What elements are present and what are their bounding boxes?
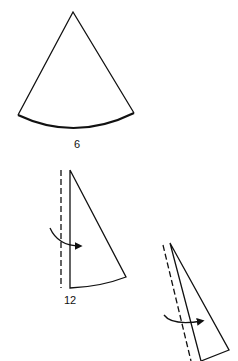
folded-sector-figure-2 <box>163 243 229 361</box>
figure-label-6: 6 <box>74 138 80 150</box>
folded-sector-figure-1 <box>50 170 126 288</box>
fold-arrow-icon <box>164 315 202 323</box>
figure-label-12: 12 <box>64 294 76 306</box>
sector-figure <box>18 12 134 128</box>
fold-line-dashed <box>163 245 191 361</box>
fold-arrow-icon <box>50 228 80 246</box>
fold-diagram <box>0 0 238 361</box>
